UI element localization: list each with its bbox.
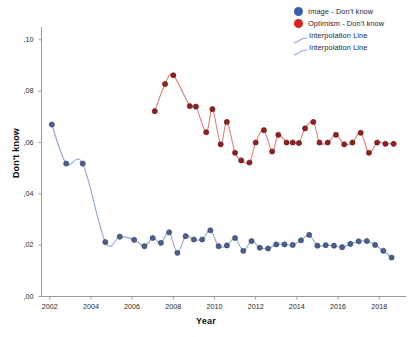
- data-point: [356, 239, 361, 244]
- data-point: [315, 243, 320, 248]
- data-point: [307, 232, 312, 237]
- data-point: [261, 128, 266, 133]
- chart-container: ,00,02,04,06,08,10 200220042006200820102…: [0, 0, 412, 337]
- data-point: [270, 149, 275, 154]
- axes: [39, 27, 407, 300]
- data-point: [257, 245, 262, 250]
- x-tick-label: 2014: [283, 302, 311, 311]
- data-point: [241, 248, 246, 253]
- data-point: [249, 238, 254, 243]
- data-point: [224, 119, 229, 124]
- x-tick-label: 2012: [242, 302, 270, 311]
- y-tick-label: ,02: [12, 240, 34, 249]
- data-point: [348, 241, 353, 246]
- data-point: [175, 250, 180, 255]
- data-point: [204, 130, 209, 135]
- data-point: [142, 244, 147, 249]
- data-point: [200, 237, 205, 242]
- data-point: [265, 246, 270, 251]
- data-point: [152, 109, 157, 114]
- data-point: [239, 158, 244, 163]
- data-point: [208, 228, 213, 233]
- legend-line-icon: [294, 43, 308, 52]
- series-optimism: [152, 73, 396, 165]
- data-point: [366, 150, 371, 155]
- data-point: [218, 142, 223, 147]
- data-point: [350, 140, 355, 145]
- x-tick-label: 2006: [118, 302, 146, 311]
- data-point: [290, 242, 295, 247]
- data-point: [311, 119, 316, 124]
- data-point: [284, 140, 289, 145]
- data-point: [150, 235, 155, 240]
- data-point: [117, 234, 122, 239]
- x-tick-label: 2004: [77, 302, 105, 311]
- data-point: [253, 140, 258, 145]
- data-point: [331, 243, 336, 248]
- legend-circle-icon: [294, 7, 303, 16]
- data-point: [381, 248, 386, 253]
- chart-legend: Image - Don't knowOptimism - Don't knowI…: [294, 6, 412, 54]
- legend-label: Optimism - Don't know: [308, 19, 384, 28]
- data-point: [232, 235, 237, 240]
- legend-circle-icon: [294, 19, 303, 28]
- legend-label: Interpolation Line: [309, 31, 368, 40]
- data-point: [216, 244, 221, 249]
- data-point: [158, 240, 163, 245]
- data-point: [317, 140, 322, 145]
- legend-item-2[interactable]: Interpolation Line: [294, 30, 412, 41]
- data-point: [132, 237, 137, 242]
- data-point: [375, 140, 380, 145]
- data-point: [64, 161, 69, 166]
- x-tick-label: 2008: [159, 302, 187, 311]
- data-point: [333, 132, 338, 137]
- legend-item-0[interactable]: Image - Don't know: [294, 6, 412, 17]
- y-axis-title: Don't know: [11, 113, 21, 193]
- data-point: [210, 107, 215, 112]
- x-tick-label: 2018: [365, 302, 393, 311]
- data-point: [340, 245, 345, 250]
- data-point: [296, 140, 301, 145]
- data-point: [298, 238, 303, 243]
- data-point: [49, 122, 54, 127]
- data-point: [103, 239, 108, 244]
- data-point: [373, 242, 378, 247]
- x-tick-label: 2016: [324, 302, 352, 311]
- legend-label: Interpolation Line: [309, 43, 368, 52]
- data-point: [193, 104, 198, 109]
- data-point: [325, 140, 330, 145]
- data-point: [232, 150, 237, 155]
- data-point: [167, 230, 172, 235]
- data-point: [276, 132, 281, 137]
- legend-item-1[interactable]: Optimism - Don't know: [294, 18, 412, 29]
- data-point: [162, 81, 167, 86]
- y-tick-label: ,10: [12, 35, 34, 44]
- data-point: [187, 103, 192, 108]
- data-point: [224, 243, 229, 248]
- data-point: [183, 234, 188, 239]
- data-point: [364, 238, 369, 243]
- data-point: [282, 242, 287, 247]
- legend-label: Image - Don't know: [308, 7, 373, 16]
- data-point: [342, 142, 347, 147]
- data-point: [247, 160, 252, 165]
- data-point: [358, 130, 363, 135]
- x-tick-label: 2010: [200, 302, 228, 311]
- data-series-group: [49, 73, 396, 260]
- y-tick-label: ,00: [12, 292, 34, 301]
- data-point: [171, 73, 176, 78]
- data-point: [383, 141, 388, 146]
- data-point: [389, 255, 394, 260]
- x-tick-label: 2002: [36, 302, 64, 311]
- y-tick-label: ,08: [12, 86, 34, 95]
- data-point: [80, 161, 85, 166]
- data-point: [323, 243, 328, 248]
- data-point: [191, 237, 196, 242]
- data-point: [302, 126, 307, 131]
- x-axis-title: Year: [0, 316, 412, 326]
- legend-item-3[interactable]: Interpolation Line: [294, 42, 412, 53]
- legend-line-icon: [294, 31, 308, 40]
- data-point: [391, 141, 396, 146]
- data-point: [290, 140, 295, 145]
- data-point: [274, 242, 279, 247]
